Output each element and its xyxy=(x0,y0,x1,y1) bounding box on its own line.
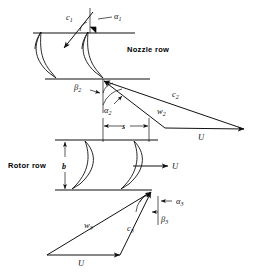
pitch-dimension-s: s xyxy=(103,118,149,142)
label-u-rotor: U xyxy=(172,161,179,171)
alpha2-angle-arc xyxy=(103,89,122,105)
turbine-stage-diagram: c1 α1 Nozzle row β2 α2 c2 w2 U xyxy=(0,0,261,275)
label-u-station3: U xyxy=(78,258,85,268)
label-alpha1: α1 xyxy=(114,11,121,22)
nozzle-blade-1 xyxy=(35,32,56,78)
figure-canvas: c1 α1 Nozzle row β2 α2 c2 w2 U xyxy=(0,0,261,275)
nozzle-blade-2 xyxy=(82,32,103,78)
label-c3: c3 xyxy=(127,223,134,234)
alpha1-corner-tick xyxy=(90,27,96,33)
velocity-vector-w2 xyxy=(104,81,165,128)
label-blade-height-b: b xyxy=(62,162,66,171)
alpha1-leader-line xyxy=(98,17,112,19)
label-alpha2: α2 xyxy=(104,105,111,116)
label-alpha3: α3 xyxy=(176,196,183,207)
label-c1: c1 xyxy=(66,12,73,23)
label-rotor-row: Rotor row xyxy=(8,161,46,170)
label-w3: w3 xyxy=(84,220,93,231)
beta2-leader-line xyxy=(90,90,100,93)
rotor-blade-1 xyxy=(72,141,93,189)
velocity-vector-u-station2 xyxy=(165,128,244,129)
alpha2-leader-line xyxy=(114,96,122,104)
label-c2: c2 xyxy=(172,89,179,100)
label-beta2: β2 xyxy=(73,82,81,93)
blade-height-dimension-b: b xyxy=(62,142,66,189)
rotor-blade-2 xyxy=(121,141,142,189)
label-u-station2: U xyxy=(198,132,205,142)
label-w2: w2 xyxy=(157,106,166,117)
label-nozzle-row: Nozzle row xyxy=(127,45,169,54)
label-pitch-s: s xyxy=(121,122,125,131)
label-beta3: β3 xyxy=(160,214,168,225)
